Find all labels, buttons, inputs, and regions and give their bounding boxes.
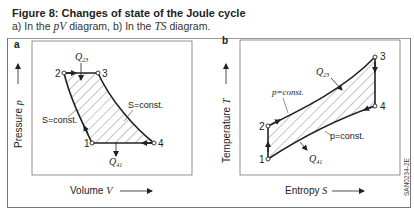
panel-a-label: a: [14, 39, 20, 50]
point-2-label: 2: [55, 68, 61, 79]
y-axis-label-temperature: Temperature T: [221, 97, 232, 163]
point-3-label: 3: [102, 68, 108, 79]
point-3-label-ts: 3: [380, 51, 386, 62]
figure-code: SAN0234-2E: [403, 157, 410, 196]
panel-b-ts-diagram: b 2 3 4 1 Q23 Q41 p=const. p=const: [221, 35, 400, 196]
x-axis-label-volume: Volume V: [70, 185, 114, 196]
heat-out-label: Q41: [109, 156, 122, 168]
heat-out-label-ts: Q41: [309, 153, 322, 165]
point-2-label-ts: 2: [259, 121, 265, 132]
point-1-label-ts: 1: [259, 154, 265, 165]
heat-in-label-ts: Q23: [316, 66, 329, 78]
isobar-lower-label: p=const.: [330, 131, 364, 141]
panel-a-pv-diagram: a 2 3 1 4 Q23 Q41 S=const. S=const.: [13, 39, 192, 196]
cycle-diagrams: a 2 3 1 4 Q23 Q41 S=const. S=const.: [0, 0, 414, 209]
isobar-upper-label: p=const.: [271, 87, 304, 97]
isentrope-left-label: S=const.: [42, 115, 77, 125]
heat-in-label: Q23: [75, 51, 88, 63]
point-4-label: 4: [158, 138, 164, 149]
isentrope-right-label: S=const.: [128, 100, 163, 110]
y-axis-label-pressure: Pressure p: [13, 100, 24, 148]
x-axis-label-entropy: Entropy S: [285, 185, 327, 196]
point-4-label-ts: 4: [380, 101, 386, 112]
panel-b-label: b: [222, 35, 228, 46]
point-1-label: 1: [84, 138, 90, 149]
